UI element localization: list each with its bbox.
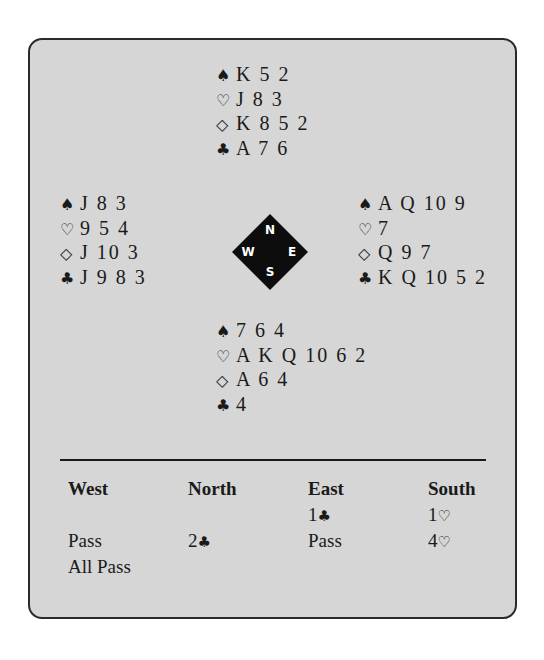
south-clubs: ♣4 bbox=[216, 392, 367, 417]
bid-east-1: 1♣ bbox=[308, 504, 331, 526]
east-clubs: ♣K Q 10 5 2 bbox=[358, 265, 487, 290]
heart-icon: ♡ bbox=[216, 89, 236, 114]
header-north: North bbox=[188, 478, 237, 500]
bid-south-1: 1♡ bbox=[428, 504, 451, 526]
header-west: West bbox=[68, 478, 108, 500]
west-spades: ♠J 8 3 bbox=[60, 191, 147, 216]
club-icon: ♣ bbox=[60, 267, 80, 292]
heart-icon: ♡ bbox=[60, 218, 80, 243]
compass-west: W bbox=[241, 245, 254, 259]
diamond-icon: ◇ bbox=[60, 242, 80, 267]
compass-south: S bbox=[266, 265, 275, 279]
south-spades: ♠7 6 4 bbox=[216, 318, 367, 343]
bid-south-2: 4♡ bbox=[428, 530, 451, 552]
north-hand: ♠K 5 2 ♡J 8 3 ◇K 8 5 2 ♣A 7 6 bbox=[216, 62, 309, 160]
header-east: East bbox=[308, 478, 344, 500]
diamond-icon: ◇ bbox=[216, 369, 236, 394]
west-hand: ♠J 8 3 ♡9 5 4 ◇J 10 3 ♣J 9 8 3 bbox=[60, 191, 147, 289]
south-hand: ♠7 6 4 ♡A K Q 10 6 2 ◇A 6 4 ♣4 bbox=[216, 318, 367, 416]
spade-icon: ♠ bbox=[216, 320, 236, 345]
east-diamonds: ◇Q 9 7 bbox=[358, 240, 487, 265]
header-south: South bbox=[428, 478, 476, 500]
south-hearts: ♡A K Q 10 6 2 bbox=[216, 343, 367, 368]
compass-north: N bbox=[265, 223, 275, 237]
spade-icon: ♠ bbox=[358, 193, 378, 218]
diamond-icon: ◇ bbox=[358, 242, 378, 267]
north-clubs: ♣A 7 6 bbox=[216, 136, 309, 161]
south-diamonds: ◇A 6 4 bbox=[216, 367, 367, 392]
north-spades: ♠K 5 2 bbox=[216, 62, 309, 87]
bid-west-3: All Pass bbox=[68, 556, 131, 578]
club-icon: ♣ bbox=[216, 394, 236, 419]
east-hearts: ♡7 bbox=[358, 216, 487, 241]
heart-icon: ♡ bbox=[438, 533, 451, 551]
compass-east: E bbox=[288, 245, 296, 259]
heart-icon: ♡ bbox=[358, 218, 378, 243]
heart-icon: ♡ bbox=[216, 345, 236, 370]
compass-icon: N E S W bbox=[230, 212, 310, 292]
club-icon: ♣ bbox=[216, 138, 236, 163]
east-spades: ♠A Q 10 9 bbox=[358, 191, 487, 216]
north-diamonds: ◇K 8 5 2 bbox=[216, 111, 309, 136]
west-hearts: ♡9 5 4 bbox=[60, 216, 147, 241]
club-icon: ♣ bbox=[318, 507, 331, 525]
west-clubs: ♣J 9 8 3 bbox=[60, 265, 147, 290]
spade-icon: ♠ bbox=[216, 64, 236, 89]
diamond-icon: ◇ bbox=[216, 113, 236, 138]
east-hand: ♠A Q 10 9 ♡7 ◇Q 9 7 ♣K Q 10 5 2 bbox=[358, 191, 487, 289]
west-diamonds: ◇J 10 3 bbox=[60, 240, 147, 265]
spade-icon: ♠ bbox=[60, 193, 80, 218]
north-hearts: ♡J 8 3 bbox=[216, 87, 309, 112]
club-icon: ♣ bbox=[198, 533, 211, 551]
club-icon: ♣ bbox=[358, 267, 378, 292]
bid-east-2: Pass bbox=[308, 530, 342, 552]
divider bbox=[60, 459, 486, 461]
bid-north-2: 2♣ bbox=[188, 530, 211, 552]
bid-west-2: Pass bbox=[68, 530, 102, 552]
heart-icon: ♡ bbox=[438, 507, 451, 525]
